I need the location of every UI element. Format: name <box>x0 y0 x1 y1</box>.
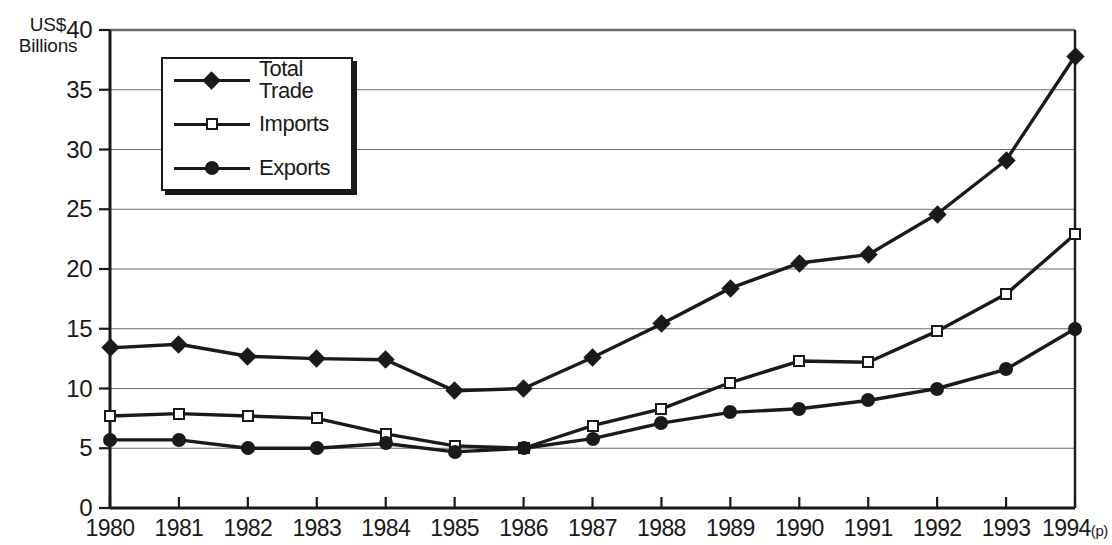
open-square-marker-icon <box>242 410 254 422</box>
open-square-marker-icon <box>862 356 874 368</box>
open-square-marker-icon <box>724 377 736 389</box>
legend-label-imports: Imports <box>259 113 329 135</box>
open-square-marker-icon <box>173 408 185 420</box>
y-tick-label: 25 <box>48 197 92 221</box>
open-square-marker-icon <box>793 355 805 367</box>
legend-item-total-trade: Total Trade <box>163 65 351 95</box>
open-square-marker-icon <box>1000 288 1012 300</box>
filled-circle-marker-icon <box>448 445 462 459</box>
legend-label-total-trade: Total Trade <box>259 58 351 102</box>
open-square-marker-icon <box>1069 228 1081 240</box>
filled-circle-marker-icon <box>517 441 531 455</box>
y-tick-label: 35 <box>48 78 92 102</box>
filled-circle-marker-icon <box>103 433 117 447</box>
filled-circle-marker-icon <box>1068 322 1082 336</box>
filled-circle-marker-icon <box>241 441 255 455</box>
y-tick-label: 15 <box>48 317 92 341</box>
y-tick-label: 20 <box>48 257 92 281</box>
filled-circle-marker-icon <box>792 402 806 416</box>
open-square-marker-icon <box>104 410 116 422</box>
y-tick-label: 10 <box>48 377 92 401</box>
diamond-marker-icon <box>202 71 220 89</box>
legend-item-exports: Exports <box>163 153 351 183</box>
open-square-marker-icon <box>655 403 667 415</box>
filled-circle-marker-icon <box>310 441 324 455</box>
open-square-marker-icon <box>587 420 599 432</box>
y-tick-label: 5 <box>48 436 92 460</box>
legend-item-imports: Imports <box>163 109 351 139</box>
y-tick-label: 40 <box>48 18 92 42</box>
filled-circle-marker-icon <box>172 433 186 447</box>
legend: Total Trade Imports Exports <box>161 57 353 191</box>
open-square-marker-icon <box>311 412 323 424</box>
legend-label-exports: Exports <box>259 157 330 179</box>
legend-swatch-total-trade <box>174 69 250 91</box>
legend-swatch-exports <box>174 157 250 179</box>
open-square-marker-icon <box>206 118 218 130</box>
filled-circle-marker-icon <box>205 161 219 175</box>
legend-swatch-imports <box>174 113 250 135</box>
y-tick-label: 30 <box>48 138 92 162</box>
open-square-marker-icon <box>931 325 943 337</box>
filled-circle-marker-icon <box>586 432 600 446</box>
filled-circle-marker-icon <box>930 382 944 396</box>
x-tick-label: 1994(p) <box>1025 516 1112 543</box>
